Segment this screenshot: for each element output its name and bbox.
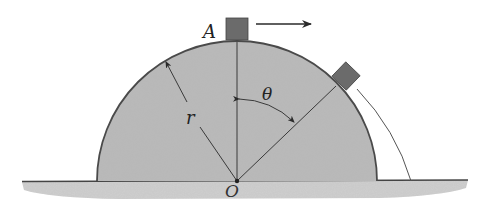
- radius-label: r: [186, 107, 196, 128]
- theta-label: θ: [262, 84, 272, 104]
- point-a-label: A: [201, 21, 216, 42]
- origin-label: O: [225, 181, 239, 201]
- ground: [22, 180, 468, 199]
- block-at-top: [226, 18, 248, 40]
- diagram-canvas: r θ O A: [0, 0, 488, 220]
